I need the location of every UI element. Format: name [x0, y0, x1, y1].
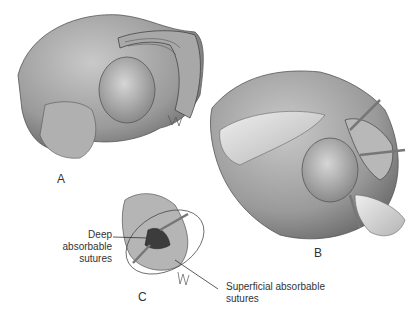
- deep-sutures-annotation: Deep absorbable sutures: [38, 229, 112, 265]
- superficial-sutures-annotation: Superficial absorbable sutures: [226, 281, 325, 305]
- deep-sutures-line1: Deep absorbable: [38, 229, 112, 253]
- panel-label-a: A: [57, 172, 65, 186]
- panel-label-b: B: [314, 246, 322, 260]
- superficial-suture-leader: [175, 260, 218, 289]
- panel-label-c: C: [138, 290, 147, 304]
- superficial-sutures-line1: Superficial absorbable: [226, 281, 325, 293]
- illustration-canvas: [0, 0, 413, 313]
- panel-b-illustration: [210, 71, 405, 239]
- superficial-sutures-line2: sutures: [226, 293, 325, 305]
- deep-sutures-line2: sutures: [38, 253, 112, 265]
- panel-c-illustration: [113, 194, 218, 289]
- panel-a-illustration: [18, 15, 203, 159]
